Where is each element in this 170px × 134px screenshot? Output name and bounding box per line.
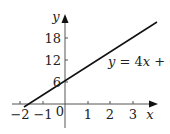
y-axis-label: y [51,9,60,24]
x-tick-label: −1 [33,107,52,122]
y-tick-label: 18 [44,31,61,46]
y-tick-label: 12 [44,53,61,68]
x-tick-label: 2 [106,107,114,122]
y-tick-label: 6 [53,75,61,90]
x-tick-label: 3 [129,107,137,122]
x-tick-label: 1 [84,107,92,122]
line-chart: −2 −1 0 1 2 3 x 6 12 18 y y = 4x + 6 [0,0,170,134]
y-axis-arrow-icon [62,14,69,23]
x-tick-label: −2 [10,107,29,122]
x-axis-label: x [146,107,154,122]
equation-label: y = 4x + 6 [107,54,170,69]
origin-label: 0 [56,104,64,119]
